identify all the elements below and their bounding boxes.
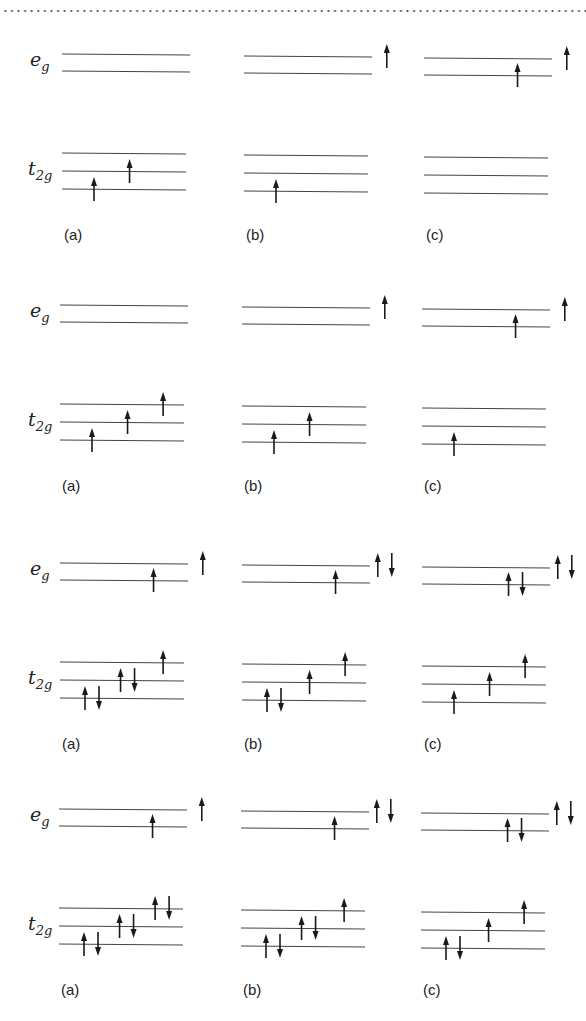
spin-up-arrow-icon — [564, 46, 570, 70]
eg-label: eg — [30, 299, 50, 325]
t2g-level-line — [59, 908, 183, 909]
t2g-level-line — [422, 426, 546, 427]
t2g-level-line — [422, 444, 546, 445]
eg-level-line — [242, 324, 370, 325]
spin-up-arrow-icon — [521, 900, 527, 924]
spin-up-arrow-icon — [522, 654, 528, 678]
spin-down-arrow-icon — [568, 801, 574, 825]
t2g-level-line — [242, 664, 366, 665]
spin-down-arrow-icon — [389, 553, 395, 577]
t2g-level-line — [60, 698, 184, 699]
configuration-label-b: (b) — [244, 477, 262, 494]
spin-up-arrow-icon — [506, 572, 512, 596]
spin-down-arrow-icon — [388, 799, 394, 823]
eg-level-line — [62, 54, 190, 55]
t2g-level-line — [421, 930, 545, 931]
configuration-label-a: (a) — [62, 477, 80, 494]
t2g-label-sub: 2g — [36, 168, 53, 183]
t2g-level-line — [59, 944, 183, 945]
spin-up-arrow-icon — [125, 410, 131, 434]
spin-up-arrow-icon — [152, 896, 158, 920]
spin-up-arrow-icon — [554, 801, 560, 825]
spin-up-arrow-icon — [160, 650, 166, 674]
t2g-label: t2g — [28, 666, 52, 692]
t2g-level-line — [242, 442, 366, 443]
t2g-level-line — [422, 702, 546, 703]
configuration-label-c: (c) — [423, 981, 441, 998]
spin-down-arrow-icon — [132, 668, 138, 692]
eg-level-line — [422, 567, 550, 568]
t2g-label-sub: 2g — [36, 923, 53, 938]
eg-level-line — [242, 582, 370, 583]
eg-level-line — [422, 584, 550, 585]
eg-label-main: e — [30, 557, 41, 579]
spin-up-arrow-icon — [515, 63, 521, 87]
t2g-label: t2g — [28, 912, 52, 938]
t2g-level-line — [424, 157, 548, 158]
t2g-label-main: t — [28, 157, 36, 179]
t2g-level-line — [421, 948, 545, 949]
t2g-level-line — [242, 682, 366, 683]
eg-level-line — [424, 75, 552, 76]
eg-level-line — [60, 563, 188, 564]
t2g-level-line — [244, 173, 368, 174]
spin-up-arrow-icon — [505, 818, 511, 842]
eg-level-line — [244, 73, 372, 74]
spin-up-arrow-icon — [374, 799, 380, 823]
eg-level-line — [421, 813, 549, 814]
spin-down-arrow-icon — [131, 914, 137, 938]
eg-label: eg — [30, 48, 50, 74]
t2g-level-line — [422, 684, 546, 685]
t2g-level-line — [60, 680, 184, 681]
eg-level-line — [422, 309, 550, 310]
configuration-label-a: (a) — [62, 735, 80, 752]
t2g-level-line — [60, 662, 184, 663]
eg-label: eg — [30, 803, 50, 829]
t2g-level-line — [422, 666, 546, 667]
t2g-label-sub: 2g — [36, 419, 53, 434]
spin-up-arrow-icon — [375, 553, 381, 577]
t2g-level-line — [242, 700, 366, 701]
t2g-level-line — [241, 946, 365, 947]
eg-level-line — [421, 830, 549, 831]
spin-up-arrow-icon — [384, 44, 390, 68]
t2g-label-main: t — [28, 408, 36, 430]
spin-up-arrow-icon — [160, 392, 166, 416]
configuration-label-b: (b) — [246, 226, 264, 243]
configuration-label-b: (b) — [243, 981, 261, 998]
t2g-level-line — [60, 422, 184, 423]
configuration-label-c: (c) — [424, 477, 442, 494]
spin-up-arrow-icon — [562, 297, 568, 321]
eg-level-line — [60, 322, 188, 323]
spin-up-arrow-icon — [200, 551, 206, 575]
spin-up-arrow-icon — [151, 568, 157, 592]
spin-up-arrow-icon — [307, 670, 313, 694]
t2g-level-line — [62, 171, 186, 172]
t2g-level-line — [59, 926, 183, 927]
t2g-label: t2g — [28, 157, 52, 183]
eg-level-line — [242, 565, 370, 566]
configuration-label-a: (a) — [61, 981, 79, 998]
t2g-level-line — [244, 191, 368, 192]
eg-level-line — [60, 580, 188, 581]
t2g-level-line — [60, 404, 184, 405]
t2g-label-main: t — [28, 666, 36, 688]
spin-up-arrow-icon — [341, 898, 347, 922]
spin-up-arrow-icon — [332, 816, 338, 840]
t2g-level-line — [62, 153, 186, 154]
eg-level-line — [422, 326, 550, 327]
t2g-label: t2g — [28, 408, 52, 434]
spin-down-arrow-icon — [166, 896, 172, 920]
eg-label-main: e — [30, 803, 41, 825]
t2g-level-line — [424, 175, 548, 176]
configuration-label-b: (b) — [244, 735, 262, 752]
eg-level-line — [62, 71, 190, 72]
t2g-level-line — [421, 912, 545, 913]
eg-level-line — [241, 828, 369, 829]
eg-level-line — [241, 811, 369, 812]
eg-level-line — [424, 58, 552, 59]
spin-up-arrow-icon — [127, 159, 133, 183]
eg-level-line — [59, 809, 187, 810]
eg-level-line — [244, 56, 372, 57]
configuration-label-c: (c) — [424, 735, 442, 752]
